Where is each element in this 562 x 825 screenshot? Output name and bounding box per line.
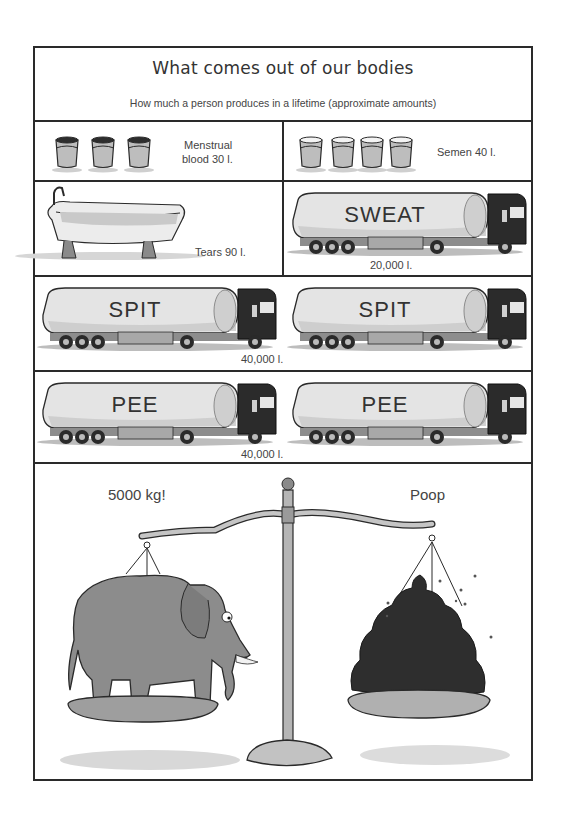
elephant-weight-label: 5000 kg! xyxy=(108,486,166,503)
poop-label: Poop xyxy=(410,486,445,503)
elephant-icon xyxy=(69,575,258,705)
poop-pile-icon xyxy=(351,575,485,697)
balance-scale-illustration xyxy=(0,0,562,825)
